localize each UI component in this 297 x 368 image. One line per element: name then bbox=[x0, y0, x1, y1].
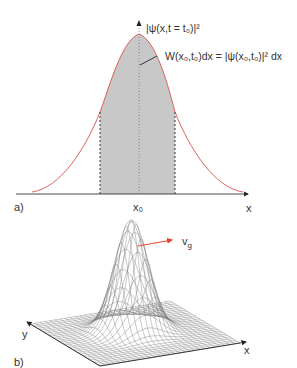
panel-b: vg y x b) bbox=[14, 219, 250, 368]
panel-a-label: a) bbox=[14, 201, 24, 213]
wavepacket-surface bbox=[30, 219, 240, 366]
x-axis-3d-label: x bbox=[244, 344, 250, 356]
x-axis-label: x bbox=[246, 202, 252, 214]
probability-area bbox=[100, 34, 175, 194]
figure: |ψ(x,t = t₀)|² W(x₀,t₀)dx = |ψ(x₀,t₀)|² … bbox=[0, 0, 297, 368]
y-axis-arrow-icon bbox=[137, 20, 142, 26]
panel-a: |ψ(x,t = t₀)|² W(x₀,t₀)dx = |ψ(x₀,t₀)|² … bbox=[14, 20, 283, 214]
annotation-text: W(x₀,t₀)dx = |ψ(x₀,t₀)|² dx bbox=[165, 50, 283, 62]
panel-b-label: b) bbox=[14, 356, 24, 368]
y-axis-3d-label: y bbox=[22, 328, 28, 340]
x-axis-3d bbox=[100, 342, 246, 366]
y-axis-label: |ψ(x,t = t₀)|² bbox=[146, 22, 200, 34]
velocity-label: vg bbox=[182, 235, 192, 250]
x0-tick-label: x₀ bbox=[133, 201, 143, 213]
